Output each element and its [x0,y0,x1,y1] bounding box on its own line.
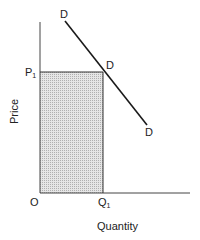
quantity-level-label: Q1 [98,196,111,209]
demand-label-top: D [60,8,68,20]
demand-label-mid: D [106,59,114,71]
y-axis-label: Price [8,99,20,124]
price-level-label: P1 [25,66,36,79]
demand-diagram: D D D P1 Q1 O Quantity Price [0,0,200,240]
demand-label-bottom: D [145,126,153,138]
x-axis-label: Quantity [97,220,138,232]
revenue-rectangle [40,72,103,193]
origin-label: O [30,196,39,208]
